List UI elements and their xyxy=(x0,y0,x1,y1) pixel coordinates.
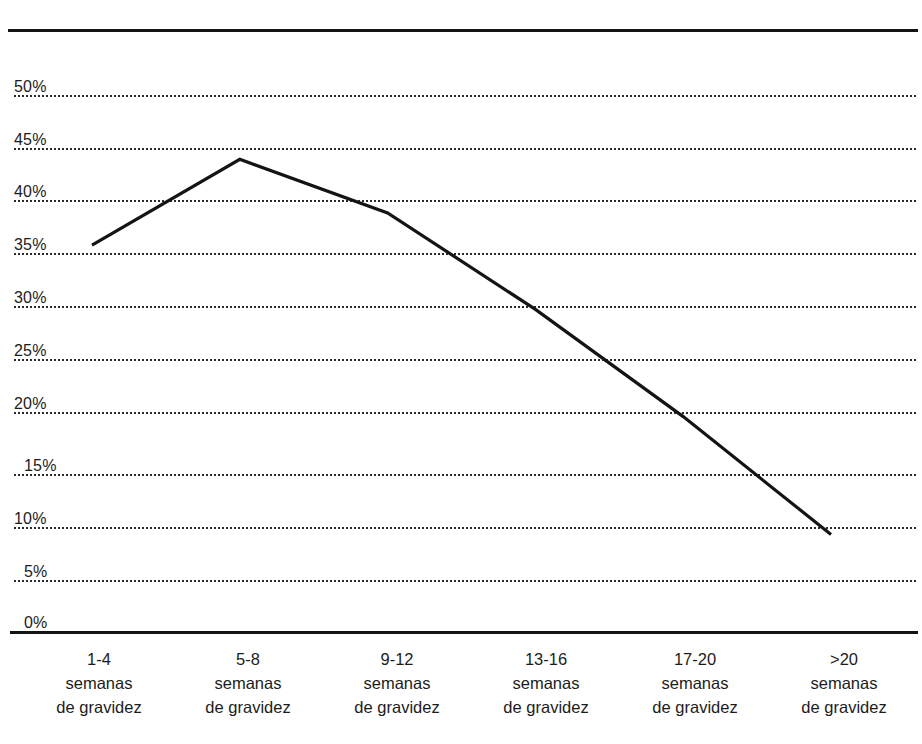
x-category-3-line3: de gravidez xyxy=(322,696,472,720)
x-category-6: >20 semanas de gravidez xyxy=(769,648,919,720)
x-category-4: 13-16 semanas de gravidez xyxy=(471,648,621,720)
x-category-1: 1-4 semanas de gravidez xyxy=(24,648,174,720)
x-category-2-line2: semanas xyxy=(173,672,323,696)
x-category-5-line3: de gravidez xyxy=(620,696,770,720)
x-category-3-line2: semanas xyxy=(322,672,472,696)
series-layer xyxy=(0,0,922,640)
chart-container: 50% 45% 40% 35% 30% 25% 20% 15% 10% 5% 0… xyxy=(0,0,922,744)
x-category-6-line2: semanas xyxy=(769,672,919,696)
x-category-5: 17-20 semanas de gravidez xyxy=(620,648,770,720)
x-category-6-range: >20 xyxy=(769,648,919,672)
x-category-4-line2: semanas xyxy=(471,672,621,696)
x-category-4-line3: de gravidez xyxy=(471,696,621,720)
x-category-2-line3: de gravidez xyxy=(173,696,323,720)
x-category-1-line3: de gravidez xyxy=(24,696,174,720)
x-category-3: 9-12 semanas de gravidez xyxy=(322,648,472,720)
x-category-1-line2: semanas xyxy=(24,672,174,696)
x-category-5-line2: semanas xyxy=(620,672,770,696)
x-category-6-line3: de gravidez xyxy=(769,696,919,720)
x-category-2-range: 5-8 xyxy=(173,648,323,672)
x-category-4-range: 13-16 xyxy=(471,648,621,672)
data-line-series-1 xyxy=(92,159,831,534)
x-category-3-range: 9-12 xyxy=(322,648,472,672)
x-category-2: 5-8 semanas de gravidez xyxy=(173,648,323,720)
x-category-1-range: 1-4 xyxy=(24,648,174,672)
x-axis-labels: 1-4 semanas de gravidez 5-8 semanas de g… xyxy=(0,648,922,744)
plot-area: 50% 45% 40% 35% 30% 25% 20% 15% 10% 5% 0… xyxy=(0,0,922,640)
x-category-5-range: 17-20 xyxy=(620,648,770,672)
